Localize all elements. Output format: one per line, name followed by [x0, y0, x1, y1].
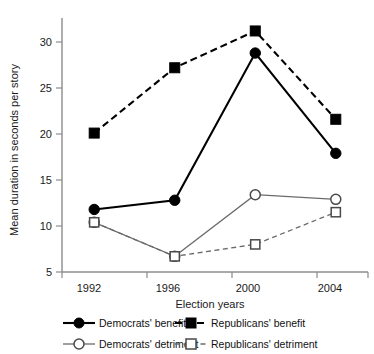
data-point-marker	[251, 240, 260, 249]
x-tick-label-1996: 1996	[156, 282, 180, 294]
data-point-marker	[170, 252, 179, 261]
data-point-marker	[90, 218, 99, 227]
markers-republicans-detriment	[90, 208, 341, 261]
series-line	[94, 212, 336, 256]
legend-entry-democrats-benefit[interactable]: Democrats' benefit	[0, 315, 168, 331]
data-point-marker	[89, 204, 99, 214]
data-point-marker	[331, 114, 341, 124]
y-tick-label-25: 25	[40, 82, 52, 94]
republicans-benefit-key-icon	[174, 315, 208, 331]
democrats-benefit-key-icon	[62, 315, 96, 331]
series-line	[94, 195, 336, 257]
series-democrats-benefit	[94, 53, 336, 209]
data-point-marker	[89, 128, 99, 138]
y-axis-title: Mean duration in seconds per story	[8, 64, 20, 236]
y-tick-label-15: 15	[40, 174, 52, 186]
y-tick-label-10: 10	[40, 220, 52, 232]
data-point-marker	[250, 26, 260, 36]
data-point-marker	[170, 63, 180, 73]
series-layer	[89, 26, 341, 261]
series-republicans-detriment	[94, 212, 336, 256]
legend-entry-republicans-detriment[interactable]: Republicans' detriment	[168, 336, 374, 352]
y-tick-label-20: 20	[40, 128, 52, 140]
y-tick-label-30: 30	[40, 36, 52, 48]
data-point-marker	[170, 195, 180, 205]
data-point-marker	[331, 208, 340, 217]
data-point-marker	[250, 190, 260, 200]
line-chart-figure: 5 10 15 20 25 30 1992 1996 2000 2004 Ele…	[0, 0, 374, 354]
legend-entry-democrats-detriment[interactable]: Democrats' detriment	[0, 336, 168, 352]
series-line	[94, 31, 336, 133]
chart-legend: Democrats' benefit Republicans' benefit …	[0, 312, 374, 354]
series-democrats-detriment	[94, 195, 336, 257]
legend-entry-republicans-benefit[interactable]: Republicans' benefit	[168, 315, 374, 331]
legend-label-republicans-detriment: Republicans' detriment	[208, 338, 317, 350]
data-point-marker	[250, 48, 260, 58]
data-point-marker	[331, 148, 341, 158]
x-tick-label-1992: 1992	[77, 282, 101, 294]
republicans-detriment-key-icon	[174, 336, 208, 352]
data-point-marker	[331, 194, 341, 204]
x-axis-title: Election years	[175, 298, 245, 310]
democrats-detriment-key-icon	[62, 336, 96, 352]
chart-plot-area: 5 10 15 20 25 30 1992 1996 2000 2004 Ele…	[0, 0, 374, 354]
x-tick-label-2000: 2000	[236, 282, 260, 294]
series-line	[94, 53, 336, 209]
legend-label-republicans-benefit: Republicans' benefit	[208, 317, 305, 329]
legend-row-benefit: Democrats' benefit Republicans' benefit	[0, 312, 374, 333]
x-tick-label-2004: 2004	[318, 282, 342, 294]
series-republicans-benefit	[94, 31, 336, 133]
markers-democrats-benefit	[89, 48, 341, 215]
y-tick-label-5: 5	[46, 266, 52, 278]
legend-row-detriment: Democrats' detriment Republicans' detrim…	[0, 333, 374, 354]
markers-republicans-benefit	[89, 26, 341, 138]
